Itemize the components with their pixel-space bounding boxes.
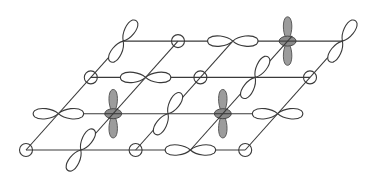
- p-orbital-lobe-icon: [238, 75, 260, 101]
- lattice-lines: [26, 41, 342, 150]
- site-dz-r3c3: [279, 17, 296, 65]
- site-px-r0c3: [165, 145, 216, 155]
- p-orbital-lobe-icon: [338, 18, 360, 44]
- site-dz-r1c1: [105, 89, 122, 137]
- lattice-column-line: [136, 41, 233, 150]
- site-px-r1c0: [33, 108, 84, 118]
- site-px-r2c1: [120, 72, 171, 82]
- site-px-r1c4: [252, 108, 303, 118]
- site-px-r3c2: [208, 36, 258, 46]
- p-orbital-lobe-icon: [165, 145, 190, 155]
- p-orbital-lobe-icon: [325, 38, 347, 64]
- p-orbital-lobe-icon: [106, 38, 128, 64]
- site-dz-r1c3: [214, 89, 231, 137]
- orbital-lattice-diagram: [0, 0, 375, 177]
- p-orbital-lobe-icon: [151, 111, 173, 137]
- p-orbital-lobe-icon: [119, 18, 141, 44]
- lattice-column-line: [190, 41, 287, 150]
- p-orbital-lobe-icon: [76, 127, 98, 153]
- p-orbital-lobe-icon: [164, 90, 186, 116]
- p-orbital-lobe-icon: [64, 147, 86, 173]
- lattice-svg: [0, 0, 375, 177]
- p-orbital-lobe-icon: [251, 54, 273, 80]
- p-orbital-lobe-icon: [233, 36, 258, 46]
